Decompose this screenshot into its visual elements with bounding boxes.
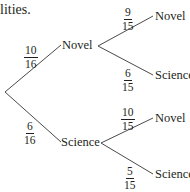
numerator: 6 <box>26 121 34 134</box>
node-science: Science <box>61 136 100 149</box>
node-science-science: Science <box>155 168 190 181</box>
prob-root-novel: 10 16 <box>24 45 38 70</box>
numerator: 6 <box>124 68 132 81</box>
node-novel: Novel <box>62 39 93 52</box>
denominator: 16 <box>24 134 36 146</box>
numerator: 10 <box>121 107 135 120</box>
prob-novel-novel: 9 15 <box>122 7 134 32</box>
prob-novel-science: 6 15 <box>122 68 134 93</box>
prob-root-science: 6 16 <box>24 121 36 146</box>
node-novel-novel: Novel <box>155 10 186 23</box>
prob-science-novel: 10 15 <box>121 107 135 132</box>
numerator: 5 <box>126 166 134 179</box>
node-novel-science: Science <box>155 69 190 82</box>
numerator: 9 <box>124 7 132 20</box>
denominator: 15 <box>122 120 134 132</box>
tree-branches <box>0 0 190 192</box>
node-science-novel: Novel <box>155 112 186 125</box>
numerator: 10 <box>24 45 38 58</box>
denominator: 16 <box>25 58 37 70</box>
denominator: 15 <box>122 20 134 32</box>
denominator: 15 <box>122 81 134 93</box>
prob-science-science: 5 15 <box>124 166 136 191</box>
denominator: 15 <box>124 179 136 191</box>
